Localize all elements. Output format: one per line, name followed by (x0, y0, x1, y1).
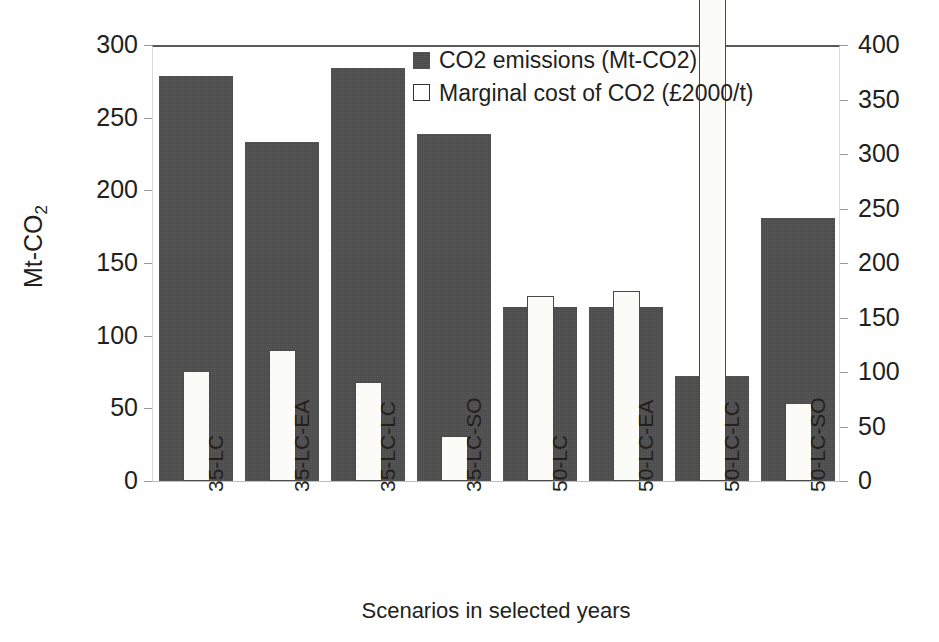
left-axis-tick-labels: 300250200150100500 (30, 0, 138, 642)
bar-group (503, 45, 577, 481)
x-axis-category-label: 50-LC-SO (807, 397, 828, 492)
legend-label: Marginal cost of CO2 (£2000/t) (439, 77, 753, 110)
x-axis-category-label: 35-LC (205, 435, 226, 492)
right-axis-tick-label: 50 (858, 414, 886, 439)
left-axis-tick-label: 250 (96, 105, 138, 130)
legend-swatch-marginal-cost-icon (413, 84, 430, 101)
left-axis-tick-label: 100 (96, 323, 138, 348)
right-axis-tick-labels: 400350300250200150100500 (858, 0, 938, 642)
left-axis-tick-label: 300 (96, 32, 138, 57)
right-axis-tickmark (839, 154, 848, 155)
right-axis-tickmark (839, 100, 848, 101)
bar-group (159, 45, 233, 481)
right-axis-tick-label: 200 (858, 250, 900, 275)
x-axis-category-label: 35-LC-SO (463, 397, 484, 492)
right-axis-tick-label: 400 (858, 32, 900, 57)
legend-entry[interactable]: CO2 emissions (Mt-CO2) (413, 44, 753, 77)
x-axis-category-label: 35-LC-EA (291, 400, 312, 492)
right-axis-tickmark (839, 263, 848, 264)
right-axis-tick-label: 350 (858, 87, 900, 112)
right-axis-tick-label: 250 (858, 196, 900, 221)
legend-label: CO2 emissions (Mt-CO2) (439, 44, 697, 77)
right-axis-tickmark (839, 372, 848, 373)
left-axis-tick-label: 200 (96, 177, 138, 202)
left-axis-tick-label: 50 (110, 395, 138, 420)
right-axis-tick-label: 300 (858, 141, 900, 166)
right-axis-tickmark (839, 318, 848, 319)
right-axis-tickmark (839, 45, 848, 46)
x-axis-category-label: 50-LC-LC (721, 401, 742, 492)
chart-legend: CO2 emissions (Mt-CO2)Marginal cost of C… (413, 44, 753, 109)
left-axis-tick-label: 0 (124, 468, 138, 493)
x-axis-category-label: 35-LC-LC (377, 401, 398, 492)
x-axis-category-label: 50-LC-EA (635, 400, 656, 492)
chart-container: Mt-CO2 300250200150100500 40035030025020… (0, 0, 939, 642)
left-axis-tick-label: 150 (96, 250, 138, 275)
right-axis-tickmark (839, 209, 848, 210)
x-axis-category-label: 50-LC (549, 435, 570, 492)
right-axis-tickmark (839, 481, 848, 482)
right-axis-tick-label: 150 (858, 305, 900, 330)
right-axis-tick-label: 0 (858, 468, 872, 493)
legend-entry[interactable]: Marginal cost of CO2 (£2000/t) (413, 77, 753, 110)
legend-swatch-emissions-icon (413, 52, 430, 69)
right-axis-tick-label: 100 (858, 359, 900, 384)
right-axis-tickmark (839, 427, 848, 428)
x-axis-title: Scenarios in selected years (152, 598, 840, 624)
